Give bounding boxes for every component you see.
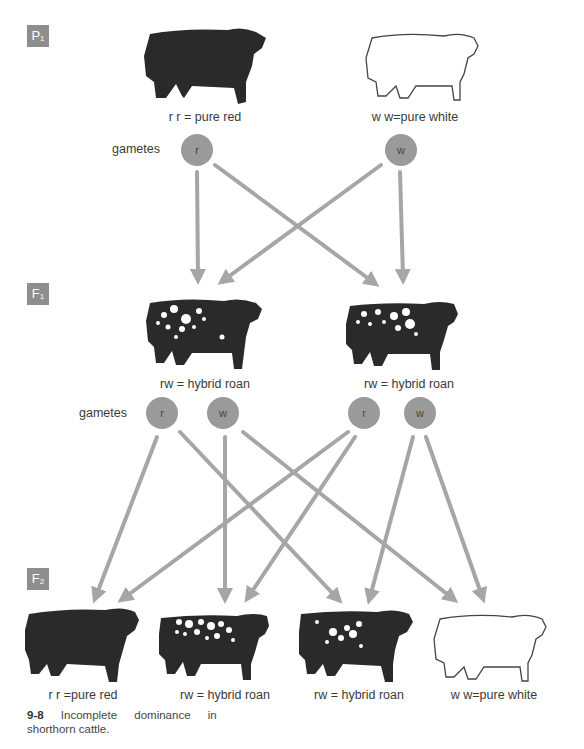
cow-hybrid-roan-f2-left bbox=[157, 612, 271, 682]
f2-label-hybrid-roan-right: rw = hybrid roan bbox=[294, 688, 424, 702]
f2-label-hybrid-roan-left: rw = hybrid roan bbox=[160, 688, 290, 702]
f1-gametes-label: gametes bbox=[79, 406, 127, 420]
gamete-w-p1: w bbox=[385, 134, 417, 166]
gamete-w-f1-left: w bbox=[207, 397, 239, 429]
gamete-r-p1: r bbox=[181, 134, 213, 166]
caption-line-1: Incomplete dominance in bbox=[61, 709, 217, 721]
f2-label-pure-red: r r =pure red bbox=[28, 688, 138, 702]
f2-label-pure-white: w w=pure white bbox=[434, 688, 554, 702]
cow-pure-red-p1 bbox=[142, 26, 268, 106]
p1-white-label: w w=pure white bbox=[355, 110, 475, 124]
p1-gametes-label: gametes bbox=[112, 142, 160, 156]
arrow-p-r-to-f1-right bbox=[215, 165, 373, 282]
cow-pure-white-f2 bbox=[432, 611, 548, 683]
gamete-r-f1-left: r bbox=[146, 397, 178, 429]
figure-number: 9-8 bbox=[27, 709, 44, 721]
cow-hybrid-roan-f1-left bbox=[144, 297, 264, 373]
figure-caption: 9-8 Incomplete dominance in shorthorn ca… bbox=[27, 708, 217, 736]
caption-line-2: shorthorn cattle. bbox=[27, 722, 217, 736]
cow-pure-white-p1 bbox=[364, 30, 480, 106]
p1-red-label: r r = pure red bbox=[150, 110, 260, 124]
gamete-w-f1-right: w bbox=[404, 397, 436, 429]
cow-pure-red-f2 bbox=[25, 606, 141, 684]
arrow-p-w-to-f1-right bbox=[400, 172, 403, 277]
arrow-p-w-to-f1-left bbox=[224, 165, 381, 280]
cow-hybrid-roan-f1-right bbox=[344, 300, 460, 372]
f1-right-label: rw = hybrid roan bbox=[344, 377, 474, 391]
cow-hybrid-roan-f2-right bbox=[297, 608, 413, 684]
f1-left-label: rw = hybrid roan bbox=[140, 377, 270, 391]
gamete-r-f1-right: r bbox=[348, 397, 380, 429]
arrow-p-r-to-f1-left bbox=[197, 172, 198, 277]
